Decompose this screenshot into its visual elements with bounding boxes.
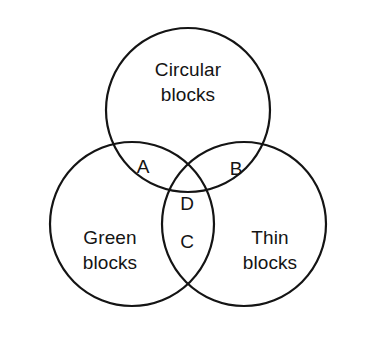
venn-diagram-figure: Circular blocks Green blocks Thin blocks… — [0, 0, 372, 346]
label-thin-blocks-line2: blocks — [243, 252, 297, 273]
venn-diagram-canvas: Circular blocks Green blocks Thin blocks… — [0, 0, 372, 346]
label-green-blocks-line2: blocks — [83, 252, 137, 273]
label-thin-blocks-line1: Thin — [251, 227, 288, 248]
region-label-a: A — [137, 156, 150, 177]
region-label-c: C — [180, 231, 194, 252]
diagram-background — [0, 0, 372, 346]
label-green-blocks-line1: Green — [83, 227, 136, 248]
region-label-d: D — [180, 193, 194, 214]
label-circular-blocks-line1: Circular — [155, 59, 222, 80]
region-label-b: B — [230, 158, 243, 179]
label-circular-blocks-line2: blocks — [161, 84, 215, 105]
